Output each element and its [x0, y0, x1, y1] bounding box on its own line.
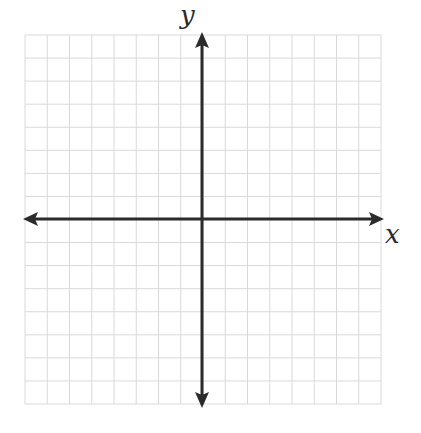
x-axis-label: x	[385, 219, 400, 249]
coordinate-plane: y x	[0, 0, 421, 433]
y-axis-label: y	[179, 0, 195, 30]
